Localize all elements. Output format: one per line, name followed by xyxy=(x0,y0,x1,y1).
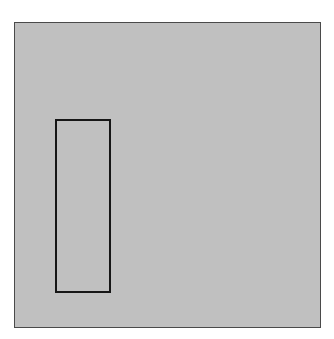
outlined-rectangle xyxy=(55,119,111,293)
diagram-canvas xyxy=(14,22,321,328)
